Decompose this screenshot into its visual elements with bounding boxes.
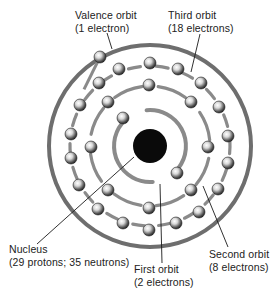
orbit-trail-third [133, 224, 145, 226]
valence-orbit-count: (1 electron) [75, 22, 137, 35]
electron-third-orbit [113, 63, 125, 75]
orbit-trail-third [73, 114, 77, 126]
electron-second-orbit [202, 141, 214, 153]
orbit-trail-second [115, 87, 142, 98]
electron-third-orbit [222, 157, 234, 169]
orbit-trail-second [91, 108, 104, 134]
orbit-trail-third [205, 195, 213, 204]
third-orbit-label: Third orbit (18 electrons) [168, 9, 234, 35]
first-orbit-title: First orbit [134, 263, 194, 276]
orbit-trail-third [222, 169, 226, 180]
electron-second-orbit [143, 202, 155, 214]
electron-first-orbit [117, 112, 129, 124]
first-orbit-count: (2 electrons) [134, 276, 194, 289]
electron-valence-orbit [94, 51, 106, 63]
electron-third-orbit [170, 217, 182, 229]
electron-second-orbit [102, 184, 114, 196]
electron-third-orbit [195, 77, 207, 89]
electron-third-orbit [143, 224, 155, 236]
electron-third-orbit [93, 77, 105, 89]
electron-third-orbit [222, 130, 234, 142]
nucleus-title: Nucleus [9, 243, 129, 256]
orbit-trail-third [207, 89, 215, 98]
electron-third-orbit [92, 203, 104, 215]
orbit-trail-second [196, 158, 209, 184]
valence-orbit-label: Valence orbit (1 electron) [75, 9, 137, 35]
electron-second-orbit [143, 79, 155, 91]
nucleus-label: Nucleus (29 protons; 35 neutrons) [9, 243, 129, 269]
first-orbit-label: First orbit (2 electrons) [134, 263, 194, 289]
orbit-trail-third [85, 90, 93, 99]
nucleus [133, 129, 167, 163]
electron-third-orbit [74, 99, 86, 111]
electron-third-orbit [65, 152, 77, 164]
electron-third-orbit [193, 206, 205, 218]
orbit-trail-third [73, 167, 77, 178]
nucleus-composition: (29 protons; 35 neutrons) [9, 256, 129, 269]
orbit-trail-third [156, 66, 168, 68]
leader-line-valence [107, 33, 112, 49]
electron-third-orbit [144, 57, 156, 69]
electron-third-orbit [117, 217, 129, 229]
orbit-trail-third [129, 67, 141, 69]
third-orbit-count: (18 electrons) [168, 22, 234, 35]
electron-third-orbit [172, 63, 184, 75]
second-orbit-label: Second orbit (8 electrons) [209, 248, 269, 274]
orbit-trail-second [200, 112, 210, 139]
second-orbit-count: (8 electrons) [209, 261, 269, 274]
electron-third-orbit [73, 179, 85, 191]
electron-first-orbit [171, 167, 183, 179]
third-orbit-title: Third orbit [168, 9, 234, 22]
electron-second-orbit [185, 96, 197, 108]
orbit-trail-third [107, 213, 118, 219]
electron-third-orbit [212, 183, 224, 195]
orbit-trail-third [224, 115, 228, 127]
valence-orbit-title: Valence orbit [75, 9, 137, 22]
orbit-trail-second [91, 154, 102, 181]
orbit-trail-second [114, 194, 141, 205]
electron-second-orbit [185, 184, 197, 196]
electron-second-orbit [85, 141, 97, 153]
electron-third-orbit [65, 128, 77, 140]
orbit-trail-third [159, 223, 171, 225]
electron-second-orbit [102, 96, 114, 108]
orbit-trail-third [182, 73, 193, 79]
electron-third-orbit [213, 101, 225, 113]
orbit-trail-second [158, 87, 185, 98]
second-orbit-title: Second orbit [209, 248, 269, 261]
